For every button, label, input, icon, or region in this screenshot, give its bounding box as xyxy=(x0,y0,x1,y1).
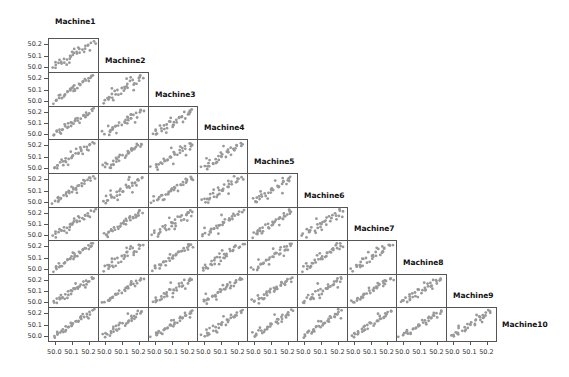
y-tick-mark xyxy=(44,302,48,303)
y-tick-mark xyxy=(44,101,48,102)
x-tick-label: 50.0 xyxy=(445,348,459,356)
y-tick-mark xyxy=(44,213,48,214)
y-tick-mark xyxy=(44,291,48,292)
y-tick-mark xyxy=(44,90,48,91)
x-tick-mark xyxy=(403,341,404,345)
y-tick-label: 50.2 xyxy=(16,40,42,48)
x-tick-mark xyxy=(139,341,140,345)
y-tick-mark xyxy=(44,134,48,135)
x-tick-mark xyxy=(271,341,272,345)
x-tick-label: 50.0 xyxy=(196,348,210,356)
y-tick-mark xyxy=(44,246,48,247)
scatter-points xyxy=(0,0,569,377)
y-tick-label: 50.1 xyxy=(16,287,42,295)
x-tick-label: 50.0 xyxy=(97,348,111,356)
y-tick-mark xyxy=(44,67,48,68)
y-tick-mark xyxy=(44,123,48,124)
x-tick-mark xyxy=(387,341,388,345)
y-tick-label: 50.0 xyxy=(16,298,42,306)
x-tick-label: 50.0 xyxy=(346,348,360,356)
x-tick-label: 50.0 xyxy=(296,348,310,356)
x-tick-mark xyxy=(371,341,372,345)
y-tick-mark xyxy=(44,235,48,236)
y-tick-mark xyxy=(44,336,48,337)
y-tick-label: 50.1 xyxy=(16,86,42,94)
x-tick-mark xyxy=(254,341,255,345)
y-tick-mark xyxy=(44,269,48,270)
x-tick-label: 50.0 xyxy=(147,348,161,356)
x-tick-mark xyxy=(221,341,222,345)
y-tick-label: 50.1 xyxy=(16,52,42,60)
y-tick-label: 50.1 xyxy=(16,153,42,161)
y-tick-label: 50.2 xyxy=(16,74,42,82)
x-tick-label: 50.2 xyxy=(131,348,145,356)
x-tick-mark xyxy=(122,341,123,345)
x-tick-label: 50.1 xyxy=(263,348,277,356)
y-tick-label: 50.0 xyxy=(16,265,42,273)
x-tick-label: 50.2 xyxy=(280,348,294,356)
y-tick-mark xyxy=(44,44,48,45)
y-tick-label: 50.1 xyxy=(16,187,42,195)
x-tick-label: 50.1 xyxy=(213,348,227,356)
y-tick-mark xyxy=(44,258,48,259)
x-tick-label: 50.1 xyxy=(412,348,426,356)
x-tick-label: 50.2 xyxy=(81,348,95,356)
x-tick-label: 50.2 xyxy=(479,348,493,356)
y-tick-label: 50.0 xyxy=(16,63,42,71)
y-tick-mark xyxy=(44,313,48,314)
x-tick-mark xyxy=(172,341,173,345)
y-tick-label: 50.0 xyxy=(16,97,42,105)
y-tick-mark xyxy=(44,168,48,169)
x-tick-label: 50.0 xyxy=(47,348,61,356)
x-tick-mark xyxy=(321,341,322,345)
x-tick-label: 50.1 xyxy=(363,348,377,356)
y-tick-mark xyxy=(44,191,48,192)
x-tick-mark xyxy=(453,341,454,345)
y-tick-label: 50.2 xyxy=(16,242,42,250)
x-tick-mark xyxy=(188,341,189,345)
y-tick-label: 50.0 xyxy=(16,198,42,206)
x-tick-label: 50.2 xyxy=(379,348,393,356)
x-tick-mark xyxy=(204,341,205,345)
y-tick-mark xyxy=(44,325,48,326)
y-tick-label: 50.0 xyxy=(16,332,42,340)
y-tick-label: 50.2 xyxy=(16,209,42,217)
y-tick-label: 50.0 xyxy=(16,130,42,138)
y-tick-label: 50.0 xyxy=(16,231,42,239)
x-tick-mark xyxy=(72,341,73,345)
x-tick-label: 50.0 xyxy=(395,348,409,356)
y-tick-mark xyxy=(44,202,48,203)
y-tick-label: 50.2 xyxy=(16,108,42,116)
y-tick-mark xyxy=(44,56,48,57)
y-tick-label: 50.2 xyxy=(16,309,42,317)
x-tick-label: 50.2 xyxy=(429,348,443,356)
x-tick-label: 50.1 xyxy=(64,348,78,356)
y-tick-label: 50.2 xyxy=(16,276,42,284)
y-tick-label: 50.0 xyxy=(16,164,42,172)
x-tick-label: 50.1 xyxy=(164,348,178,356)
x-tick-label: 50.1 xyxy=(462,348,476,356)
y-tick-label: 50.1 xyxy=(16,254,42,262)
y-tick-mark xyxy=(44,179,48,180)
x-tick-mark xyxy=(238,341,239,345)
y-tick-mark xyxy=(44,157,48,158)
y-tick-label: 50.1 xyxy=(16,321,42,329)
x-tick-mark xyxy=(89,341,90,345)
y-tick-mark xyxy=(44,280,48,281)
y-tick-mark xyxy=(44,78,48,79)
x-tick-label: 50.2 xyxy=(330,348,344,356)
x-tick-mark xyxy=(437,341,438,345)
x-tick-mark xyxy=(487,341,488,345)
y-tick-label: 50.1 xyxy=(16,119,42,127)
y-tick-label: 50.1 xyxy=(16,220,42,228)
x-tick-label: 50.1 xyxy=(313,348,327,356)
x-tick-mark xyxy=(420,341,421,345)
x-tick-mark xyxy=(288,341,289,345)
y-tick-mark xyxy=(44,145,48,146)
x-tick-mark xyxy=(338,341,339,345)
y-tick-label: 50.2 xyxy=(16,141,42,149)
x-tick-mark xyxy=(55,341,56,345)
y-tick-label: 50.2 xyxy=(16,175,42,183)
x-tick-mark xyxy=(354,341,355,345)
y-tick-mark xyxy=(44,224,48,225)
